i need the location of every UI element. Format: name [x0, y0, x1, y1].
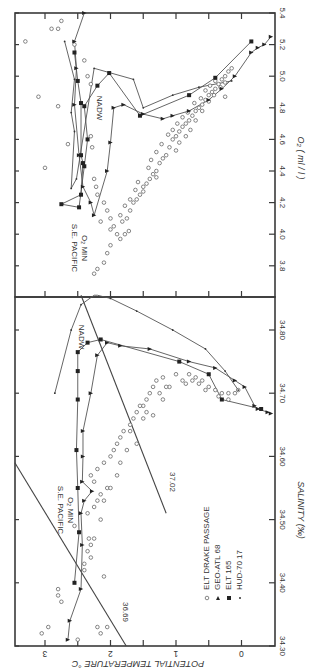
- open-circle-marker: [56, 104, 60, 108]
- open-circle-marker: [138, 193, 142, 197]
- filled-triangle-marker: [187, 360, 191, 364]
- small-dot-marker: [74, 131, 76, 133]
- filled-square-marker: [177, 360, 181, 364]
- open-circle-marker: [149, 158, 153, 162]
- top-panel-frame: [15, 13, 275, 297]
- open-circle-marker: [89, 134, 93, 138]
- open-circle-marker: [197, 382, 201, 386]
- filled-triangle-marker: [256, 46, 260, 50]
- open-circle-marker: [217, 395, 221, 399]
- open-circle-marker: [223, 74, 227, 78]
- o2-tick-label: 4.2: [278, 197, 287, 209]
- open-circle-marker: [128, 209, 132, 213]
- filled-triangle-marker: [90, 489, 94, 493]
- o2-tick-label: 4.8: [278, 102, 287, 114]
- open-circle-marker: [99, 518, 103, 522]
- small-dot-marker: [93, 67, 95, 69]
- nadw-label-bottom: NADW: [77, 325, 86, 350]
- open-circle-marker: [134, 188, 138, 192]
- bottom-panel-frame: [15, 297, 275, 646]
- open-circle-marker: [168, 146, 172, 150]
- open-circle-marker: [83, 562, 87, 566]
- filled-square-marker: [207, 372, 211, 376]
- salinity-tick-label: 34.80: [278, 320, 287, 341]
- open-circle-marker: [128, 429, 132, 433]
- salinity-tick-label: 34.70: [278, 383, 287, 404]
- open-circle-marker: [56, 27, 60, 31]
- small-dot-marker: [80, 304, 82, 306]
- filled-triangle-marker: [243, 385, 247, 389]
- open-circle-marker: [204, 388, 208, 392]
- open-circle-marker: [56, 594, 60, 598]
- open-circle-marker: [207, 93, 211, 97]
- open-circle-marker: [164, 153, 168, 157]
- open-circle-marker: [96, 193, 100, 197]
- open-circle-marker: [194, 376, 198, 380]
- o2-tick-label: 4.4: [278, 165, 287, 177]
- open-circle-marker: [176, 122, 180, 126]
- small-dot-marker: [76, 178, 78, 180]
- small-dot-marker: [133, 78, 135, 80]
- open-circle-marker: [96, 625, 100, 629]
- open-circle-marker: [161, 157, 165, 161]
- small-dot-marker: [142, 107, 144, 109]
- open-circle-marker: [212, 93, 216, 97]
- isopycnal-label-37-02: 37.02: [168, 472, 177, 493]
- open-circle-marker: [119, 213, 123, 217]
- open-circle-marker: [128, 423, 132, 427]
- open-circle-marker: [223, 95, 227, 99]
- small-dot-marker: [70, 329, 72, 331]
- small-dot-marker: [136, 310, 138, 312]
- open-circle-marker: [200, 109, 204, 113]
- small-dot-marker: [237, 389, 239, 391]
- open-circle-marker: [187, 119, 191, 123]
- open-circle-marker: [115, 474, 119, 478]
- temp-tick-label: 3: [42, 649, 47, 659]
- open-circle-marker: [92, 272, 96, 276]
- filled-square-marker: [77, 530, 81, 534]
- open-circle-marker: [109, 228, 113, 232]
- open-circle-marker: [214, 388, 218, 392]
- legend-label: ELT DRAKE PASSAGE: [202, 506, 211, 590]
- filled-square-marker: [107, 71, 111, 75]
- open-circle-marker: [158, 161, 162, 165]
- open-circle-marker: [102, 575, 106, 579]
- open-circle-marker: [128, 198, 132, 202]
- open-circle-marker: [141, 190, 145, 194]
- open-circle-marker: [87, 537, 91, 541]
- open-circle-marker: [187, 372, 191, 376]
- filled-square-marker: [249, 39, 253, 43]
- open-circle-marker: [86, 549, 90, 553]
- small-dot-marker: [224, 370, 226, 372]
- open-circle-marker: [109, 486, 113, 490]
- small-dot-marker: [231, 80, 233, 82]
- open-circle-marker: [125, 448, 129, 452]
- filled-triangle-marker: [118, 344, 122, 348]
- open-circle-marker: [141, 185, 145, 189]
- open-circle-marker: [136, 180, 140, 184]
- filled-triangle-marker: [121, 103, 125, 107]
- open-circle-marker: [119, 237, 123, 241]
- legend-label: ELT 165: [224, 560, 233, 590]
- open-circle-marker: [174, 134, 178, 138]
- open-circle-marker: [177, 130, 181, 134]
- open-circle-marker: [155, 176, 159, 180]
- open-circle-marker: [135, 442, 139, 446]
- open-circle-marker: [89, 82, 93, 86]
- open-circle-marker: [46, 625, 50, 629]
- open-circle-marker: [92, 505, 96, 509]
- open-circle-marker: [200, 379, 204, 383]
- open-circle-marker: [99, 493, 103, 497]
- o2-tick-label: 5.4: [278, 7, 287, 19]
- open-circle-marker: [155, 150, 159, 154]
- open-circle-marker: [227, 391, 231, 395]
- open-circle-marker: [177, 141, 181, 145]
- station-curve: [61, 41, 251, 207]
- salinity-tick-label: 34.50: [278, 510, 287, 531]
- filled-square-marker: [76, 486, 80, 490]
- open-circle-marker: [151, 414, 155, 418]
- salinity-tick-label: 34.60: [278, 446, 287, 467]
- open-circle-marker: [148, 391, 152, 395]
- salinity-tick-label: 34.40: [278, 573, 287, 594]
- open-circle-marker: [89, 543, 93, 547]
